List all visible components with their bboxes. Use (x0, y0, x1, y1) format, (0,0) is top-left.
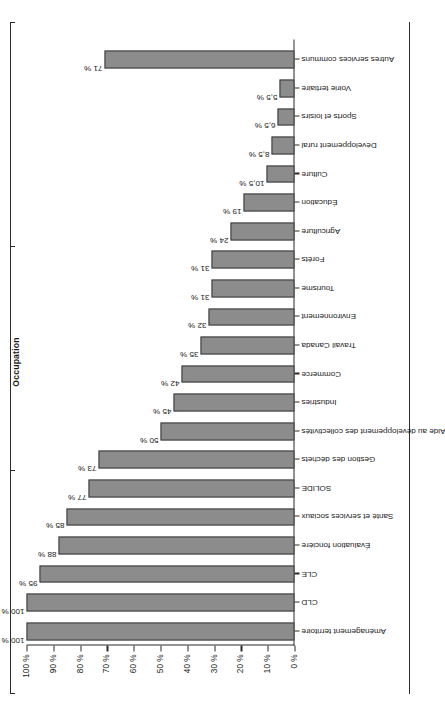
value-axis-label: 60 % (129, 654, 138, 673)
category-axis-tick (294, 515, 299, 516)
bar: 85 % (66, 508, 294, 526)
bar-value-label: 5,5 % (257, 92, 278, 101)
category-label: Forêts (301, 255, 324, 264)
bar-value-label: 24 % (209, 235, 227, 244)
value-axis-tick (187, 645, 188, 651)
bar: 19 % (243, 193, 294, 211)
value-axis-label: 50 % (156, 654, 165, 673)
category-label: Commerce (301, 369, 341, 378)
plot-area: 0 %10 %20 %30 %40 %50 %60 %70 %80 %90 %1… (26, 45, 294, 645)
bar-value-label: 45 % (153, 406, 171, 415)
bar: 100 % (26, 622, 294, 640)
bar-value-label: 77 % (67, 492, 85, 501)
bar-value-label: 95 % (19, 578, 37, 587)
bar-value-label: 8,5 % (249, 149, 270, 158)
bar: 88 % (58, 536, 294, 554)
category-label: Agriculture (301, 226, 340, 235)
category-label: CLE (301, 569, 317, 578)
category-label: Travail Canada (301, 340, 356, 349)
bar: 10,5 % (266, 165, 294, 183)
category-label: Éducation (301, 198, 337, 207)
category-label: Culture (301, 169, 327, 178)
bar-value-label: 71 % (83, 63, 101, 72)
bar-value-label: 100 % (1, 606, 24, 615)
bar: 100 % (26, 593, 294, 611)
category-axis-tick (294, 458, 299, 459)
bar-value-label: 88 % (38, 549, 56, 558)
value-axis-label: 10 % (263, 654, 272, 673)
bar-value-label: 42 % (161, 378, 179, 387)
bar-value-label: 50 % (140, 435, 158, 444)
bar-value-label: 35 % (180, 349, 198, 358)
category-label: Gestion des déchets (301, 455, 375, 464)
category-label: Sports et loisirs (301, 112, 356, 121)
value-axis-tick (106, 645, 107, 651)
bar-value-label: 6,5 % (254, 121, 275, 130)
category-axis-tick (294, 115, 299, 116)
bar-value-label: 19 % (223, 206, 241, 215)
value-axis-tick (26, 645, 27, 651)
category-label: Autres services communs (301, 55, 394, 64)
bar: 50 % (160, 422, 294, 440)
category-axis-tick (294, 344, 299, 345)
bar: 8,5 % (271, 136, 294, 154)
category-axis-tick (294, 287, 299, 288)
category-label: Aide au développement des collectivités (301, 426, 445, 435)
bar: 5,5 % (279, 79, 294, 97)
category-label: Développement rural (301, 140, 376, 149)
bar: 35 % (200, 336, 294, 354)
bar: 77 % (88, 479, 294, 497)
value-axis-tick (133, 645, 134, 651)
value-axis-tick (240, 645, 241, 651)
category-axis-tick (294, 201, 299, 202)
category-label: Industries (301, 398, 336, 407)
value-axis-label: 70 % (102, 654, 111, 673)
value-axis-label: 20 % (236, 654, 245, 673)
category-axis-tick (294, 230, 299, 231)
value-axis-label: 40 % (182, 654, 191, 673)
category-axis-tick (294, 601, 299, 602)
bar: 24 % (230, 222, 294, 240)
value-axis-tick (214, 645, 215, 651)
category-axis-tick (294, 630, 299, 631)
bar-value-label: 31 % (190, 263, 208, 272)
value-axis-tick (267, 645, 268, 651)
category-label: Environnement (301, 312, 355, 321)
value-axis-label: 0 % (290, 654, 299, 668)
category-axis-tick (294, 401, 299, 402)
value-axis-label: 80 % (75, 654, 84, 673)
bar-value-label: 31 % (190, 292, 208, 301)
category-axis-tick (294, 544, 299, 545)
category-label: Aménagement territoire (301, 626, 386, 635)
category-axis-tick (294, 372, 299, 373)
bar-value-label: 85 % (46, 521, 64, 530)
value-axis-label: 90 % (48, 654, 57, 673)
bar-value-label: 100 % (1, 635, 24, 644)
bar-value-label: 32 % (188, 321, 206, 330)
value-axis-label: 30 % (209, 654, 218, 673)
value-axis-tick (160, 645, 161, 651)
category-label: Voirie tertiaire (301, 83, 350, 92)
bar: 73 % (98, 450, 294, 468)
value-axis-label: 100 % (22, 654, 31, 677)
value-axis-tick (53, 645, 54, 651)
bar: 32 % (208, 308, 294, 326)
bar: 71 % (104, 50, 294, 68)
category-axis-tick (294, 144, 299, 145)
bar-value-label: 10,5 % (239, 178, 264, 187)
category-axis-tick (294, 430, 299, 431)
bar-value-label: 73 % (78, 463, 96, 472)
value-axis-tick (294, 645, 295, 651)
category-axis-tick (294, 487, 299, 488)
bar: 42 % (181, 365, 294, 383)
category-label: Évaluation foncière (301, 540, 370, 549)
category-label: SOLIDE (301, 483, 331, 492)
bar: 45 % (173, 393, 294, 411)
category-axis-tick (294, 258, 299, 259)
value-axis-tick (80, 645, 81, 651)
category-axis-tick (294, 572, 299, 573)
category-axis-tick (294, 87, 299, 88)
bar: 31 % (211, 279, 294, 297)
